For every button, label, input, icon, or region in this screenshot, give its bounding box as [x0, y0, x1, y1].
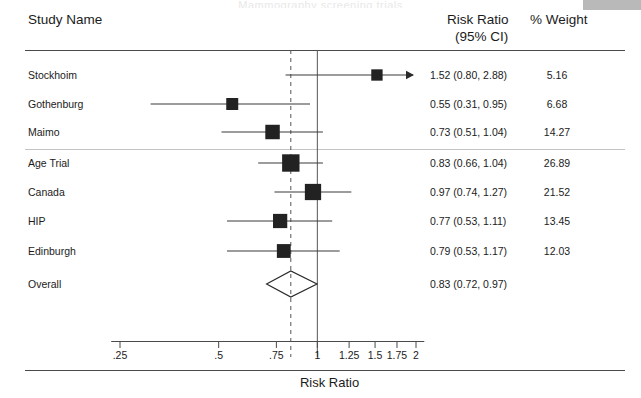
- effect-size-marker: [305, 184, 321, 200]
- study-weight-label: 14.27: [536, 126, 578, 138]
- effect-size-marker: [226, 98, 238, 110]
- x-axis-tick-label: 1: [314, 349, 320, 361]
- study-weight-label: 5.16: [536, 69, 578, 81]
- study-weight-label: 21.52: [536, 186, 578, 198]
- x-axis-tick-label: .25: [113, 349, 128, 361]
- effect-estimate-label: 0.83 (0.66, 1.04): [430, 157, 507, 169]
- overall-diamond: [267, 271, 317, 297]
- x-axis-title-text: Risk Ratio: [300, 375, 359, 390]
- effect-estimate-label: 1.52 (0.80, 2.88): [430, 69, 507, 81]
- forest-plot-canvas: [0, 0, 641, 398]
- x-axis-tick-label: 1.75: [387, 349, 407, 361]
- effect-size-marker: [273, 214, 287, 228]
- effect-estimate-label: 0.79 (0.53, 1.17): [430, 245, 507, 257]
- effect-estimate-label: 0.55 (0.31, 0.95): [430, 98, 507, 110]
- effect-size-marker: [265, 125, 279, 139]
- x-axis-tick-label: .5: [214, 349, 223, 361]
- x-axis-tick-label: 1.5: [368, 349, 383, 361]
- effect-size-marker: [277, 244, 291, 258]
- study-name-label: Maimo: [28, 126, 60, 138]
- overall-estimate-label: 0.83 (0.72, 0.97): [430, 278, 507, 290]
- study-weight-label: 26.89: [536, 157, 578, 169]
- x-axis-title: Risk Ratio: [0, 375, 641, 390]
- study-name-label: Stockhoim: [28, 69, 77, 81]
- study-name-label: Gothenburg: [28, 98, 83, 110]
- study-weight-label: 12.03: [536, 245, 578, 257]
- effect-size-marker: [282, 154, 299, 171]
- x-axis-tick-label: .75: [269, 349, 284, 361]
- ci-truncation-arrow: [406, 71, 414, 79]
- overall-label: Overall: [28, 278, 61, 290]
- effect-size-marker: [371, 69, 382, 80]
- effect-estimate-label: 0.97 (0.74, 1.27): [430, 186, 507, 198]
- study-name-label: Edinburgh: [28, 245, 76, 257]
- x-axis-tick-label: 2: [413, 349, 419, 361]
- study-weight-label: 6.68: [536, 98, 578, 110]
- study-name-label: Age Trial: [28, 157, 69, 169]
- x-axis-tick-label: 1.25: [339, 349, 359, 361]
- study-name-label: HIP: [28, 215, 46, 227]
- effect-estimate-label: 0.77 (0.53, 1.11): [430, 215, 506, 227]
- effect-estimate-label: 0.73 (0.51, 1.04): [430, 126, 507, 138]
- study-weight-label: 13.45: [536, 215, 578, 227]
- study-name-label: Canada: [28, 186, 65, 198]
